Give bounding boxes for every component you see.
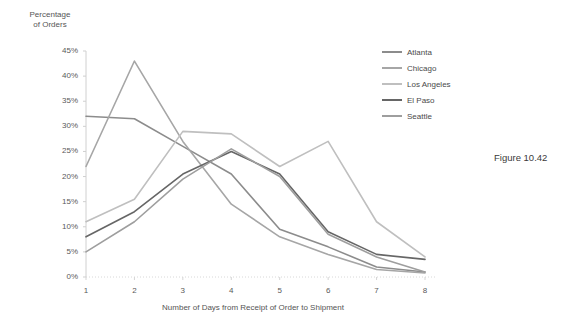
legend-label: Seattle — [407, 112, 432, 121]
legend-item-chicago[interactable]: Chicago — [382, 60, 502, 76]
figure-container: Percentage of Orders Number of Days from… — [0, 0, 587, 323]
series-lines — [86, 61, 425, 273]
legend-label: Atlanta — [407, 48, 432, 57]
legend-item-el-paso[interactable]: El Paso — [382, 92, 502, 108]
legend-swatch-icon — [382, 99, 402, 101]
legend-item-seattle[interactable]: Seattle — [382, 108, 502, 124]
legend-label: Los Angeles — [407, 80, 451, 89]
legend-swatch-icon — [382, 83, 402, 85]
series-line-los-angeles — [86, 131, 425, 257]
series-line-chicago — [86, 61, 425, 273]
legend-item-atlanta[interactable]: Atlanta — [382, 44, 502, 60]
series-line-el-paso — [86, 151, 425, 259]
legend-label: El Paso — [407, 96, 435, 105]
legend-swatch-icon — [382, 67, 402, 69]
legend-item-los-angeles[interactable]: Los Angeles — [382, 76, 502, 92]
chart-legend: AtlantaChicagoLos AngelesEl PasoSeattle — [382, 44, 502, 124]
series-line-atlanta — [86, 116, 425, 272]
axis-tick-marks — [83, 51, 425, 280]
legend-swatch-icon — [382, 51, 402, 53]
legend-swatch-icon — [382, 115, 402, 117]
legend-label: Chicago — [407, 64, 436, 73]
